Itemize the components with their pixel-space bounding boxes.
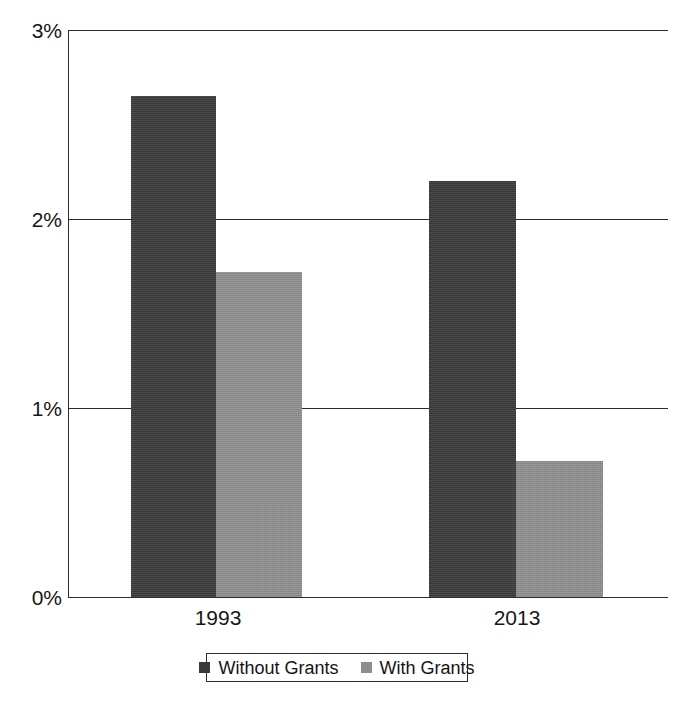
x-axis-label-2013: 2013 xyxy=(457,606,577,630)
gridline-3pct xyxy=(68,30,668,31)
legend-label-with-grants: With Grants xyxy=(380,659,475,677)
plot-area xyxy=(68,30,668,597)
legend: Without Grants With Grants xyxy=(206,653,468,682)
gridline-0pct-baseline xyxy=(68,597,668,598)
legend-item-with-grants: With Grants xyxy=(361,659,475,677)
y-tick-label-1: 1% xyxy=(4,398,62,419)
y-tick-label-0: 0% xyxy=(4,587,62,608)
bar-2013-with-grants xyxy=(516,461,603,597)
y-axis-tick-labels: 3% 2% 1% 0% xyxy=(0,0,62,710)
bar-chart: 3% 2% 1% 0% 1993 2013 Without Grants Wit… xyxy=(0,0,680,710)
y-tick-label-2: 2% xyxy=(4,209,62,230)
legend-swatch-icon-with-grants xyxy=(361,662,372,673)
legend-label-without-grants: Without Grants xyxy=(218,659,338,677)
bar-2013-without-grants xyxy=(429,181,516,597)
legend-item-without-grants: Without Grants xyxy=(199,659,338,677)
bar-1993-with-grants xyxy=(216,272,302,597)
x-axis-label-1993: 1993 xyxy=(158,606,278,630)
caption-cropped xyxy=(0,700,680,710)
y-tick-label-3: 3% xyxy=(4,20,62,41)
bar-1993-without-grants xyxy=(131,96,216,597)
legend-swatch-icon-without-grants xyxy=(199,662,210,673)
